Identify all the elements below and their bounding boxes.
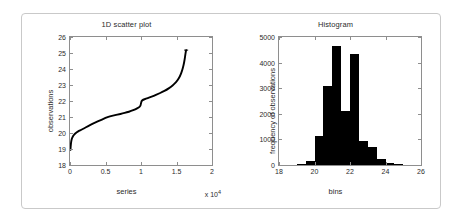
histogram-bar	[341, 111, 350, 165]
y-tick-mark	[209, 165, 212, 166]
y-tick-label: 19	[58, 146, 66, 153]
x-tick-label: 1.5	[172, 168, 182, 175]
histogram-bar	[323, 86, 332, 165]
x-tick-mark	[177, 162, 178, 165]
histogram-x-axis-label: bins	[231, 187, 440, 196]
y-tick-label: 5000	[259, 34, 275, 41]
histogram-bar	[315, 136, 324, 165]
y-tick-mark	[209, 85, 212, 86]
y-tick-label: 21	[58, 114, 66, 121]
y-tick-mark	[70, 69, 73, 70]
x-tick-mark	[386, 162, 387, 165]
x-tick-mark	[70, 37, 71, 40]
x-tick-mark	[212, 162, 213, 165]
y-tick-mark	[418, 114, 421, 115]
scatter-y-axis-label: observations	[46, 90, 55, 133]
x-tick-mark	[177, 37, 178, 40]
x-tick-mark	[141, 162, 142, 165]
y-tick-mark	[279, 139, 282, 140]
scatter-plot-axes: 18192021222324252600.511.52	[69, 36, 213, 166]
y-tick-mark	[70, 149, 73, 150]
y-tick-label: 4000	[259, 59, 275, 66]
x-tick-mark	[421, 162, 422, 165]
y-tick-mark	[209, 117, 212, 118]
y-tick-mark	[418, 88, 421, 89]
y-tick-mark	[209, 101, 212, 102]
matlab-figure-canvas: 1D scatter plot observations series x 10…	[21, 13, 441, 209]
y-tick-mark	[209, 149, 212, 150]
x-tick-mark	[141, 37, 142, 40]
x-tick-label: 24	[382, 168, 390, 175]
x-tick-label: 26	[417, 168, 425, 175]
histogram-bar-group	[288, 46, 412, 165]
x-tick-mark	[386, 37, 387, 40]
histogram-bar	[386, 163, 395, 165]
histogram-bar	[368, 147, 377, 165]
y-tick-label: 25	[58, 50, 66, 57]
histogram-bar	[332, 46, 341, 165]
x-tick-label: 22	[346, 168, 354, 175]
y-tick-mark	[70, 133, 73, 134]
x-tick-mark	[106, 37, 107, 40]
y-tick-mark	[418, 165, 421, 166]
scatter-x-exponent: x 104	[205, 189, 221, 198]
x-tick-label: 18	[275, 168, 283, 175]
scatter-plot-title: 1D scatter plot	[22, 20, 231, 29]
y-tick-mark	[209, 133, 212, 134]
x-tick-mark	[350, 162, 351, 165]
histogram-bar	[377, 159, 386, 165]
y-tick-label: 18	[58, 162, 66, 169]
x-tick-mark	[350, 37, 351, 40]
y-tick-label: 24	[58, 66, 66, 73]
x-tick-label: 20	[311, 168, 319, 175]
y-tick-mark	[418, 63, 421, 64]
scatter-x-exponent-power: 4	[218, 189, 221, 195]
sorted-observations-curve	[70, 50, 186, 150]
y-tick-mark	[209, 69, 212, 70]
y-tick-mark	[418, 139, 421, 140]
histogram-bars	[279, 37, 421, 165]
y-tick-label: 20	[58, 130, 66, 137]
x-tick-mark	[212, 37, 213, 40]
x-tick-label: 0	[68, 168, 72, 175]
histogram-bar	[306, 161, 315, 165]
histogram-title: Histogram	[231, 20, 440, 29]
scatter-plot-panel: 1D scatter plot observations series x 10…	[22, 14, 231, 208]
y-tick-mark	[279, 165, 282, 166]
y-tick-label: 3000	[259, 85, 275, 92]
y-tick-mark	[70, 101, 73, 102]
y-tick-label: 26	[58, 34, 66, 41]
x-tick-mark	[421, 37, 422, 40]
x-tick-mark	[279, 37, 280, 40]
y-tick-mark	[279, 63, 282, 64]
histogram-bar	[350, 54, 359, 165]
scatter-plot-curve	[70, 37, 212, 165]
y-tick-label: 22	[58, 98, 66, 105]
scatter-x-exponent-base: x 10	[205, 191, 218, 198]
x-tick-label: 0.5	[101, 168, 111, 175]
scatter-x-axis-label: series	[22, 187, 231, 196]
x-tick-mark	[315, 162, 316, 165]
x-tick-label: 1	[139, 168, 143, 175]
y-tick-label: 23	[58, 82, 66, 89]
y-tick-mark	[70, 85, 73, 86]
x-tick-mark	[279, 162, 280, 165]
histogram-panel: Histogram frequency of observations bins…	[231, 14, 440, 208]
y-tick-mark	[70, 117, 73, 118]
y-tick-mark	[70, 165, 73, 166]
y-tick-mark	[209, 53, 212, 54]
x-tick-mark	[315, 37, 316, 40]
histogram-bar	[359, 141, 368, 165]
histogram-bar	[297, 164, 306, 165]
y-tick-label: 1000	[259, 136, 275, 143]
y-tick-mark	[279, 114, 282, 115]
x-tick-mark	[70, 162, 71, 165]
x-tick-mark	[106, 162, 107, 165]
y-tick-mark	[70, 53, 73, 54]
y-tick-mark	[279, 88, 282, 89]
histogram-bar	[394, 164, 403, 165]
y-tick-label: 2000	[259, 110, 275, 117]
x-tick-label: 2	[210, 168, 214, 175]
histogram-axes: 0100020003000400050001820222426	[278, 36, 422, 166]
